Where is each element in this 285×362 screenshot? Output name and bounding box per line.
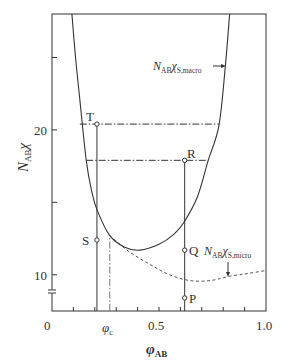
y-tick-label-20: 20 <box>34 123 47 138</box>
point-label-P: P <box>189 291 196 306</box>
macro-label: NABχS,macro <box>152 59 202 75</box>
x-tick-label-0.5: 0.5 <box>148 318 164 333</box>
macro-arrow-icon <box>213 64 226 68</box>
x-axis-title: φAB <box>146 341 167 359</box>
state-points <box>95 122 187 300</box>
y-axis-title: NABχ <box>15 142 33 173</box>
micro-label: NABχS,micro <box>203 244 252 260</box>
y-axis-break <box>48 290 56 293</box>
point-label-S: S <box>82 233 89 248</box>
y-tick-label-10: 10 <box>34 268 47 283</box>
x-tick-label-phi-c: φc <box>102 320 113 337</box>
point-label-R: R <box>187 146 196 161</box>
point-label-T: T <box>86 109 94 124</box>
point-label-Q: Q <box>189 243 199 258</box>
micro-arrow-icon <box>226 262 230 277</box>
macro-spinodal-curve <box>72 14 230 250</box>
x-tick-label-0: 0 <box>44 318 51 333</box>
phase-diagram-chart: T R S Q P NABχS,macro NABχS,micro 0 0.5 … <box>0 0 285 362</box>
x-tick-label-1.0: 1.0 <box>256 318 272 333</box>
axis-ticks <box>52 57 245 311</box>
